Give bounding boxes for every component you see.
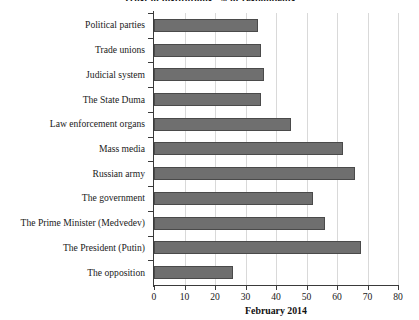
- category-label: Trade unions: [0, 44, 145, 55]
- category-label: Mass media: [0, 143, 145, 154]
- y-axis-tick: [148, 112, 153, 113]
- category-label: Judicial system: [0, 69, 145, 80]
- category-label: The government: [0, 192, 145, 203]
- bar-row[interactable]: [154, 87, 398, 112]
- y-axis-tick: [148, 161, 153, 162]
- category-axis-labels: Political partiesTrade unionsJudicial sy…: [0, 13, 147, 285]
- y-axis-tick: [148, 137, 153, 138]
- bar[interactable]: [154, 167, 355, 180]
- bar-chart-figure: Trust in institutions, % of respondents …: [0, 0, 419, 320]
- y-axis-tick: [148, 186, 153, 187]
- y-axis-tick: [148, 260, 153, 261]
- bar[interactable]: [154, 118, 291, 131]
- x-axis-tick: [154, 286, 155, 290]
- x-axis-title: February 2014: [154, 305, 398, 316]
- x-axis-tick: [185, 286, 186, 290]
- x-axis-tick-label: 30: [234, 291, 258, 303]
- x-axis-tick: [398, 286, 399, 290]
- x-axis-tick-label: 10: [173, 291, 197, 303]
- x-axis-tick-label: 60: [325, 291, 349, 303]
- x-axis-tick: [215, 286, 216, 290]
- bar-row[interactable]: [154, 186, 398, 211]
- x-axis-tick: [368, 286, 369, 290]
- x-axis-tick-label: 40: [264, 291, 288, 303]
- y-axis-tick: [148, 236, 153, 237]
- x-axis-tick: [307, 286, 308, 290]
- y-axis-tick: [148, 87, 153, 88]
- x-axis-tick: [276, 286, 277, 290]
- y-axis-tick: [148, 211, 153, 212]
- category-label: The Prime Minister (Medvedev): [0, 217, 145, 228]
- x-axis-tick-label: 20: [203, 291, 227, 303]
- y-axis-tick: [148, 13, 153, 14]
- category-label: Political parties: [0, 19, 145, 30]
- plot-area: [154, 13, 398, 285]
- bar-row[interactable]: [154, 211, 398, 236]
- chart-title: Trust in institutions, % of respondents: [0, 0, 419, 1]
- bar[interactable]: [154, 266, 233, 279]
- bar-row[interactable]: [154, 161, 398, 186]
- bar[interactable]: [154, 192, 313, 205]
- gridline: [398, 13, 399, 285]
- bar-row[interactable]: [154, 13, 398, 38]
- bar-row[interactable]: [154, 112, 398, 137]
- bar[interactable]: [154, 93, 261, 106]
- category-label: The State Duma: [0, 94, 145, 105]
- bar[interactable]: [154, 217, 325, 230]
- category-label: Russian army: [0, 168, 145, 179]
- x-axis-tick-label: 70: [356, 291, 380, 303]
- bar-row[interactable]: [154, 137, 398, 162]
- x-axis-tick-label: 80: [386, 291, 410, 303]
- bar[interactable]: [154, 19, 258, 32]
- bar-row[interactable]: [154, 236, 398, 261]
- bar-row[interactable]: [154, 260, 398, 285]
- category-label: The opposition: [0, 267, 145, 278]
- category-label: The President (Putin): [0, 242, 145, 253]
- bar[interactable]: [154, 241, 361, 254]
- y-axis-tick: [148, 62, 153, 63]
- bar-row[interactable]: [154, 62, 398, 87]
- y-axis-tick: [148, 38, 153, 39]
- bar-row[interactable]: [154, 38, 398, 63]
- x-axis-tick-label: 0: [142, 291, 166, 303]
- x-axis-tick-labels: 01020304050607080: [0, 291, 419, 305]
- category-label: Law enforcement organs: [0, 118, 145, 129]
- bar[interactable]: [154, 142, 343, 155]
- x-axis-tick: [337, 286, 338, 290]
- bar[interactable]: [154, 68, 264, 81]
- x-axis-tick-label: 50: [295, 291, 319, 303]
- x-axis-tick: [246, 286, 247, 290]
- bar[interactable]: [154, 44, 261, 57]
